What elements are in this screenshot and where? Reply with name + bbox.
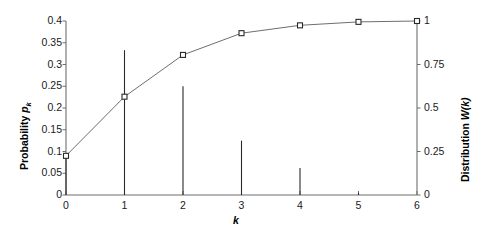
y-axis-left-tick-label: 0.3 xyxy=(14,58,62,70)
y-axis-right-title-var: W(k) xyxy=(459,97,471,120)
cdf-line xyxy=(66,21,417,156)
y-axis-left-title: Probability pk xyxy=(18,102,33,170)
x-axis-tick-label: 6 xyxy=(403,199,431,211)
cdf-marker xyxy=(64,153,69,158)
x-axis-tick-label: 2 xyxy=(169,199,197,211)
y-axis-left-title-var: p xyxy=(18,106,30,112)
x-axis-tick-label: 0 xyxy=(52,199,80,211)
y-axis-right-tick-label: 0.75 xyxy=(424,58,444,70)
y-axis-left-tick-label: 0.4 xyxy=(14,14,62,26)
x-axis-tick-label: 1 xyxy=(111,199,139,211)
cdf-marker xyxy=(356,19,361,24)
cdf-marker xyxy=(239,31,244,36)
y-axis-left-tick-label: 0.35 xyxy=(14,36,62,48)
y-axis-left-tick-label: 0.25 xyxy=(14,79,62,91)
y-axis-right-tick-label: 0.25 xyxy=(424,145,444,157)
pmf-stems xyxy=(66,50,359,195)
cdf-marker xyxy=(181,52,186,57)
x-axis-tick-label: 3 xyxy=(228,199,256,211)
chart-plot-area xyxy=(0,0,481,232)
cdf-marker xyxy=(298,23,303,28)
x-axis-tick-label: 5 xyxy=(345,199,373,211)
y-axis-left-title-text: Probability xyxy=(18,113,30,170)
x-axis-title-var: k xyxy=(233,214,239,226)
figure-canvas: 00.050.10.150.20.250.30.350.4 00.250.50.… xyxy=(0,0,481,232)
cdf-marker xyxy=(415,19,420,24)
y-axis-right-tick-label: 0.5 xyxy=(424,101,439,113)
y-axis-right-title: Distribution W(k) xyxy=(459,97,471,182)
x-axis-tick-label: 4 xyxy=(286,199,314,211)
cdf-markers xyxy=(64,19,420,159)
y-axis-left-title-sub: k xyxy=(24,102,33,106)
cdf-marker xyxy=(122,94,127,99)
y-axis-right-tick-label: 1 xyxy=(424,14,430,26)
y-axis-right-title-text: Distribution xyxy=(459,120,471,182)
x-axis-title: k xyxy=(233,214,239,226)
